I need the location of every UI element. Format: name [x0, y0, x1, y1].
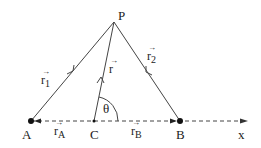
label-r: →r: [109, 63, 113, 75]
label-r1: →r1: [41, 74, 50, 89]
point-B-dot: [177, 118, 183, 124]
label-x-axis: x: [238, 128, 245, 141]
rA-arrowhead-icon: [34, 119, 41, 124]
label-A: A: [22, 128, 31, 141]
r1-direction-arrow-icon: [67, 65, 74, 74]
x-axis-arrowhead-icon: [240, 119, 248, 124]
label-theta: θ: [103, 102, 109, 115]
vector-arrow-icon: →: [148, 44, 156, 52]
label-rA: →rA: [54, 125, 65, 140]
point-C-dot: [93, 120, 96, 123]
label-B: B: [176, 128, 185, 141]
vector-r2-line: [114, 22, 180, 121]
point-A-dot: [28, 118, 34, 124]
vector-arrow-icon: →: [110, 57, 118, 65]
label-P: P: [118, 9, 125, 22]
rB-arrowhead-icon: [170, 119, 177, 124]
diagram-canvas: P A C B x θ →r1 →r →r2 →rA →rB: [0, 0, 261, 148]
vector-arrow-icon: →: [42, 68, 50, 76]
label-C: C: [90, 128, 99, 141]
vector-arrow-icon: →: [55, 119, 63, 127]
label-rB: →rB: [131, 125, 142, 140]
vector-arrow-icon: →: [132, 119, 140, 127]
label-r2: →r2: [147, 50, 156, 65]
